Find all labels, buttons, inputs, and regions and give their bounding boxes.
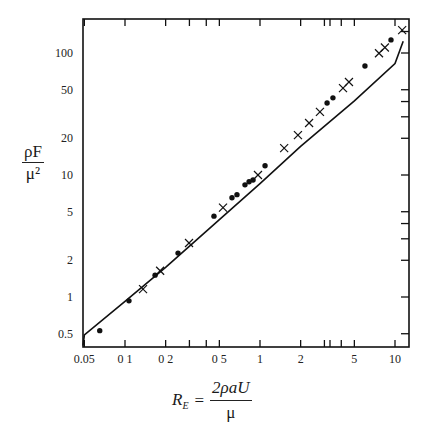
- dot-marker: [324, 100, 329, 105]
- x-label-symbol: RE: [172, 390, 189, 411]
- cross-marker: [156, 267, 164, 275]
- dot-marker: [388, 37, 393, 42]
- y-tick-label: 100: [55, 46, 73, 60]
- x-axis-label: RE = 2ρaU μ: [172, 378, 252, 423]
- x-tick-label: 0.05: [74, 352, 95, 366]
- x-label-equals: =: [195, 391, 205, 411]
- cross-marker: [398, 26, 406, 34]
- y-tick-label: 20: [61, 131, 73, 145]
- x-tick-label: 0 1: [118, 352, 133, 366]
- cross-marker: [345, 78, 353, 86]
- dot-marker: [97, 328, 102, 333]
- y-tick-label: 2: [67, 253, 73, 267]
- x-label-numerator: 2ρaU: [210, 378, 251, 401]
- y-tick-label: 50: [61, 83, 73, 97]
- x-tick-label: 2: [298, 352, 304, 366]
- y-label-numerator: ρF: [22, 143, 44, 163]
- dot-marker: [234, 192, 239, 197]
- cross-marker: [254, 171, 262, 179]
- log-log-scatter-chart: 0.050 10 20 5125100.5125102050100: [0, 0, 427, 429]
- x-tick-label: 10: [389, 352, 401, 366]
- dot-marker: [330, 95, 335, 100]
- cross-marker: [219, 204, 227, 212]
- x-label-fraction: 2ρaU μ: [210, 378, 251, 423]
- x-label-denominator: μ: [226, 401, 235, 423]
- y-tick-label: 0.5: [58, 327, 73, 341]
- dot-marker: [126, 298, 131, 303]
- y-label-denominator: μ²: [22, 163, 44, 182]
- cross-marker: [316, 108, 324, 116]
- y-tick-label: 10: [61, 168, 73, 182]
- cross-marker: [280, 144, 288, 152]
- data-points: [97, 26, 406, 333]
- cross-marker: [381, 43, 389, 51]
- x-tick-label: 0 5: [212, 352, 227, 366]
- tick-labels: 0.050 10 20 5125100.5125102050100: [55, 46, 401, 366]
- x-tick-label: 5: [351, 352, 357, 366]
- y-tick-label: 5: [67, 205, 73, 219]
- y-axis-label: ρF μ²: [22, 143, 44, 182]
- x-tick-label: 0 2: [158, 352, 173, 366]
- y-tick-label: 1: [67, 290, 73, 304]
- dot-marker: [175, 250, 180, 255]
- x-tick-label: 1: [257, 352, 263, 366]
- dot-marker: [229, 195, 234, 200]
- cross-marker: [305, 119, 313, 127]
- dot-marker: [362, 63, 367, 68]
- dot-marker: [262, 163, 267, 168]
- dot-marker: [211, 213, 216, 218]
- cross-marker: [294, 131, 302, 139]
